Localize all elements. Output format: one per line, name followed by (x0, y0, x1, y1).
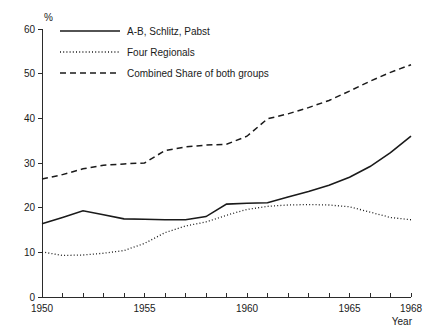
y-axis: % 0102030405060 (24, 12, 53, 303)
x-tick-label: 1965 (338, 303, 361, 314)
x-axis: Year 19501955196019651968 (31, 293, 423, 327)
y-tick-label: 10 (24, 247, 36, 258)
y-axis-title: % (44, 12, 53, 23)
series-line-3 (42, 65, 411, 179)
series-lines (42, 65, 411, 256)
x-axis-title: Year (392, 316, 413, 327)
y-tick-label: 20 (24, 202, 36, 213)
x-axis-ticks: 19501955196019651968 (31, 293, 423, 314)
x-tick-label: 1960 (236, 303, 259, 314)
series-line-1 (42, 136, 411, 224)
legend: A-B, Schlitz, PabstFour RegionalsCombine… (60, 26, 269, 79)
series-line-2 (42, 205, 411, 256)
y-tick-label: 60 (24, 24, 36, 35)
line-chart-figure: % 0102030405060 Year 1950195519601965196… (0, 0, 442, 328)
y-tick-label: 30 (24, 158, 36, 169)
legend-label-1: A-B, Schlitz, Pabst (127, 26, 210, 37)
legend-label-2: Four Regionals (127, 47, 195, 58)
x-tick-label: 1950 (31, 303, 54, 314)
y-tick-label: 50 (24, 68, 36, 79)
y-tick-label: 40 (24, 113, 36, 124)
x-tick-label: 1968 (400, 303, 423, 314)
chart-container: % 0102030405060 Year 1950195519601965196… (0, 0, 442, 328)
x-tick-label: 1955 (133, 303, 156, 314)
y-tick-label: 0 (29, 292, 35, 303)
legend-label-3: Combined Share of both groups (127, 68, 269, 79)
y-axis-ticks: 0102030405060 (24, 24, 42, 303)
